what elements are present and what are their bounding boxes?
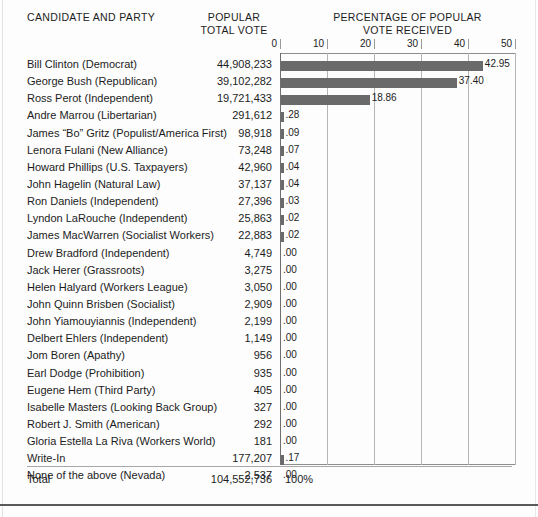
table-row: John Yiamouyiannis (Independent)2,199.00: [0, 314, 538, 331]
table-row: Andre Marrou (Libertarian)291,612.28: [0, 108, 538, 125]
table-row: Eugene Hem (Third Party)405.00: [0, 383, 538, 400]
candidate-name: John Hagelin (Natural Law): [27, 178, 160, 190]
candidate-name: Ross Perot (Independent): [27, 92, 153, 104]
table-row: James MacWarren (Socialist Workers)22,88…: [0, 228, 538, 245]
candidate-name: Bill Clinton (Democrat): [27, 58, 137, 70]
candidate-votes: 1,149: [176, 332, 272, 344]
table-row: Ross Perot (Independent)19,721,43318.86: [0, 91, 538, 108]
candidate-votes: 44,908,233: [176, 58, 272, 70]
vote-percentage-label: .09: [286, 127, 300, 138]
table-row: Helen Halyard (Workers League)3,050.00: [0, 280, 538, 297]
candidate-votes: 935: [176, 367, 272, 379]
candidate-name: Jack Herer (Grassroots): [27, 264, 144, 276]
vote-percentage-bar: [281, 232, 284, 242]
x-axis-tick-label: 50: [501, 38, 515, 49]
candidate-votes: 39,102,282: [176, 75, 272, 87]
vote-percentage-label: .17: [286, 452, 300, 463]
table-row: Earl Dodge (Prohibition)935.00: [0, 366, 538, 383]
vote-percentage-label: 18.86: [372, 92, 397, 103]
candidate-votes: 956: [176, 349, 272, 361]
candidate-votes: 405: [176, 384, 272, 396]
candidate-votes: 4,749: [176, 247, 272, 259]
column-header-candidate: CANDIDATE AND PARTY: [27, 11, 155, 23]
results-row-list: Bill Clinton (Democrat)44,908,23342.95Ge…: [0, 57, 538, 486]
chart-top-rule: [280, 53, 516, 54]
x-axis-tick-mark: [280, 39, 281, 49]
vote-percentage-label: .07: [286, 144, 300, 155]
table-row: Bill Clinton (Democrat)44,908,23342.95: [0, 57, 538, 74]
column-header-popular-line2: TOTAL VOTE: [196, 24, 272, 37]
x-axis-tick-label: 20: [360, 38, 374, 49]
candidate-votes: 177,207: [176, 452, 272, 464]
table-row: Jom Boren (Apathy)956.00: [0, 348, 538, 365]
x-axis-tick-mark: [374, 39, 375, 49]
x-axis-tick-mark: [421, 39, 422, 49]
vote-percentage-label: .04: [286, 161, 300, 172]
vote-percentage-label: .00: [283, 349, 297, 360]
x-axis-tick-label: 10: [313, 38, 327, 49]
candidate-name: Drew Bradford (Independent): [27, 247, 169, 259]
x-axis-tick-mark: [468, 39, 469, 49]
candidate-name: Jom Boren (Apathy): [27, 349, 125, 361]
vote-percentage-label: .28: [286, 109, 300, 120]
vote-percentage-label: .00: [283, 332, 297, 343]
vote-percentage-bar: [281, 180, 284, 190]
table-row: Gloria Estella La Riva (Workers World)18…: [0, 434, 538, 451]
x-axis-tick-mark: [515, 39, 516, 49]
candidate-name: Helen Halyard (Workers League): [27, 281, 188, 293]
table-row: John Quinn Brisben (Socialist)2,909.00: [0, 297, 538, 314]
table-row: Lenora Fulani (New Alliance)73,248.07: [0, 143, 538, 160]
x-axis-tick-label: 40: [454, 38, 468, 49]
vote-percentage-label: .00: [283, 315, 297, 326]
total-votes: 104,552,736: [176, 473, 272, 485]
table-row: Howard Phillips (U.S. Taxpayers)42,960.0…: [0, 160, 538, 177]
table-row: Isabelle Masters (Looking Back Group)327…: [0, 400, 538, 417]
vote-percentage-label: 37.40: [459, 75, 484, 86]
vote-percentage-label: .00: [283, 401, 297, 412]
candidate-votes: 73,248: [176, 144, 272, 156]
vote-percentage-label: .02: [286, 212, 300, 223]
vote-percentage-label: .00: [283, 435, 297, 446]
candidate-votes: 292: [176, 418, 272, 430]
table-row: Jack Herer (Grassroots)3,275.00: [0, 263, 538, 280]
x-axis-tick-label: 0: [271, 38, 280, 49]
x-axis-tick-mark: [327, 39, 328, 49]
candidate-name: Earl Dodge (Prohibition): [27, 367, 144, 379]
vote-percentage-bar: [281, 112, 284, 122]
vote-percentage-label: .00: [283, 298, 297, 309]
column-header-percentage: PERCENTAGE OF POPULAR VOTE RECEIVED: [300, 11, 515, 37]
candidate-votes: 22,883: [176, 229, 272, 241]
candidate-votes: 2,199: [176, 315, 272, 327]
candidate-name: George Bush (Republican): [27, 75, 157, 87]
table-row: Delbert Ehlers (Independent)1,149.00: [0, 331, 538, 348]
chart-x-axis: 01020304050: [0, 38, 538, 50]
total-separator: [27, 466, 512, 467]
candidate-votes: 291,612: [176, 109, 272, 121]
table-row: George Bush (Republican)39,102,28237.40: [0, 74, 538, 91]
table-row: James “Bo” Gritz (Populist/America First…: [0, 126, 538, 143]
candidate-votes: 3,050: [176, 281, 272, 293]
candidate-votes: 98,918: [176, 127, 272, 139]
vote-percentage-label: .02: [286, 229, 300, 240]
candidate-votes: 25,863: [176, 212, 272, 224]
column-header-popular-line1: POPULAR: [196, 11, 272, 24]
candidate-name: Lenora Fulani (New Alliance): [27, 144, 168, 156]
vote-percentage-label: .00: [283, 264, 297, 275]
vote-percentage-bar: [281, 215, 284, 225]
vote-percentage-bar: [281, 95, 370, 105]
vote-percentage-bar: [281, 129, 284, 139]
vote-percentage-bar: [281, 78, 457, 88]
vote-percentage-label: .03: [286, 195, 300, 206]
candidate-name: Delbert Ehlers (Independent): [27, 332, 168, 344]
table-row: Robert J. Smith (American)292.00: [0, 417, 538, 434]
column-header-percentage-line1: PERCENTAGE OF POPULAR: [300, 11, 515, 24]
table-row: John Hagelin (Natural Law)37,137.04: [0, 177, 538, 194]
vote-percentage-bar: [281, 455, 284, 465]
table-row: Ron Daniels (Independent)27,396.03: [0, 194, 538, 211]
vote-percentage-bar: [281, 61, 483, 71]
candidate-name: Eugene Hem (Third Party): [27, 384, 155, 396]
candidate-votes: 181: [176, 435, 272, 447]
vote-percentage-label: .04: [286, 178, 300, 189]
table-row: Drew Bradford (Independent)4,749.00: [0, 246, 538, 263]
candidate-votes: 327: [176, 401, 272, 413]
